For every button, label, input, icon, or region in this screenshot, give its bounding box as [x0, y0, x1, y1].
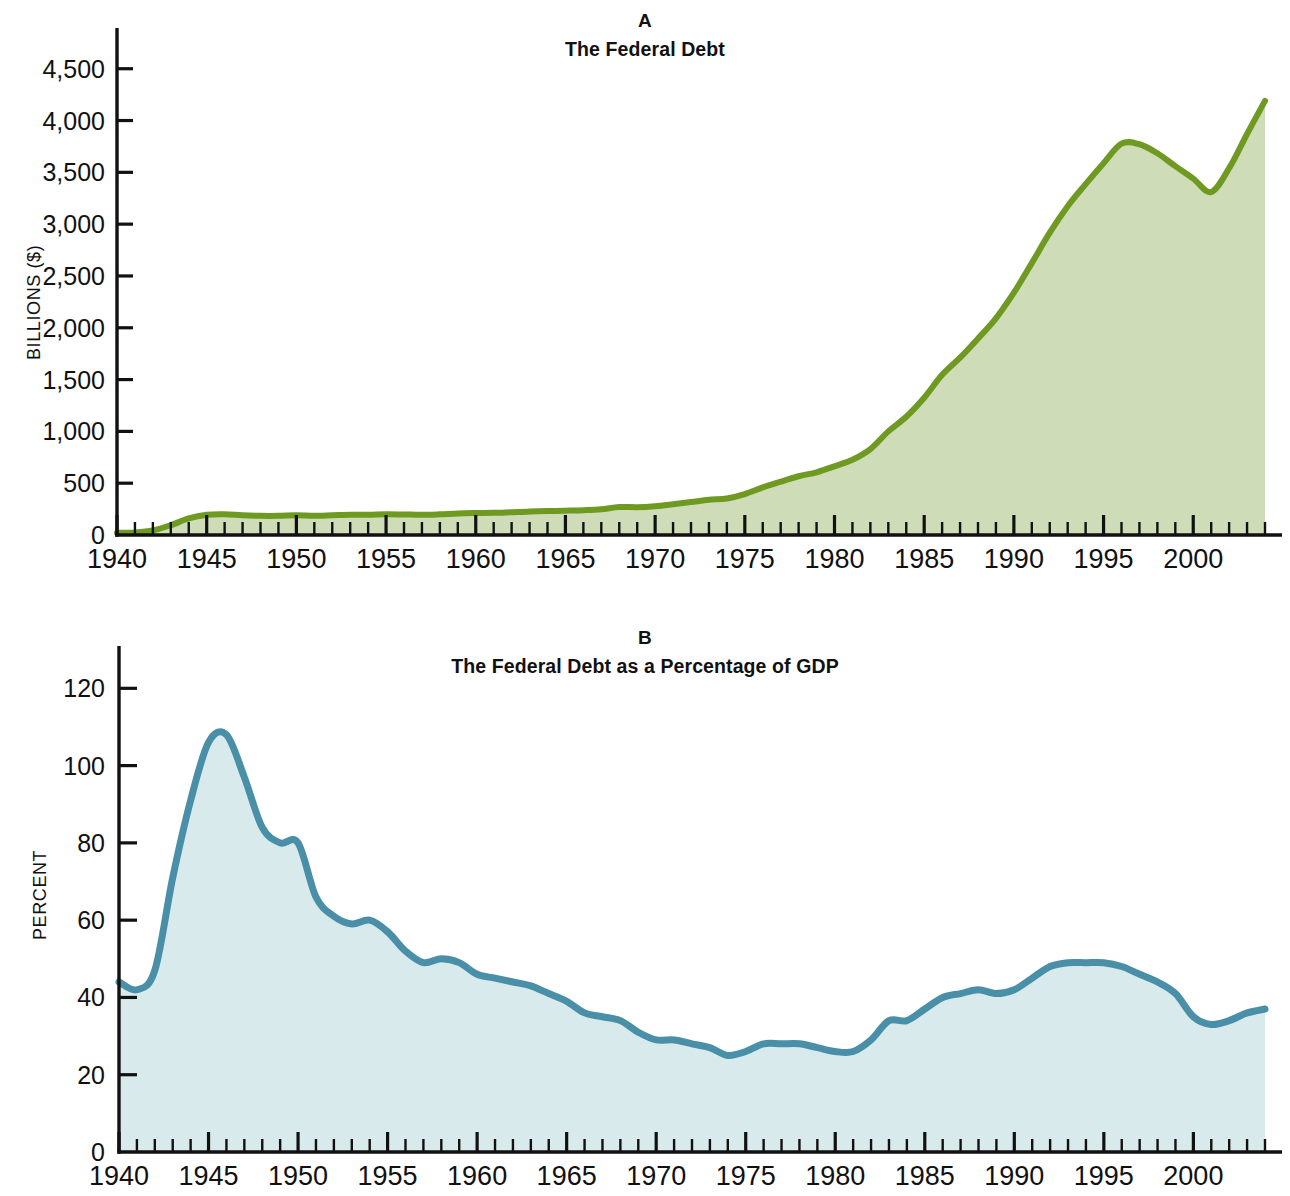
panel-a-x-tick-label: 1960 [446, 544, 506, 574]
panel-b-x-tick-label: 1995 [1074, 1161, 1134, 1191]
panel-b-x-tick-label: 2000 [1163, 1161, 1223, 1191]
panel-b-x-tick-label: 1960 [447, 1161, 507, 1191]
panel-a-plot: 05001,0001,5002,0002,5003,0003,5004,0004… [0, 0, 1290, 600]
panel-b-x-tick-label: 1945 [178, 1161, 238, 1191]
panel-b-x-tick-label: 1970 [626, 1161, 686, 1191]
panel-b-plot: 0204060801001201940194519501955196019651… [0, 600, 1290, 1196]
panel-b-x-tick-label: 1985 [895, 1161, 955, 1191]
panel-a-x-tick-label: 1990 [984, 544, 1044, 574]
panel-b-y-tick-label: 80 [77, 829, 105, 857]
panel-a-x-tick-label: 1955 [356, 544, 416, 574]
panel-b-federal-debt-pct-gdp: B The Federal Debt as a Percentage of GD… [0, 600, 1290, 1196]
panel-a-x-tick-label: 1995 [1074, 544, 1134, 574]
panel-b-x-tick-label: 1980 [805, 1161, 865, 1191]
panel-a-x-tick-label: 1950 [266, 544, 326, 574]
panel-a-y-tick-label: 1,000 [42, 417, 105, 445]
panel-a-x-tick-label: 1980 [804, 544, 864, 574]
panel-b-x-tick-label: 1940 [89, 1161, 149, 1191]
panel-b-y-tick-label: 60 [77, 906, 105, 934]
panel-b-y-tick-label: 20 [77, 1061, 105, 1089]
panel-a-y-tick-label: 3,000 [42, 210, 105, 238]
panel-a-y-tick-label: 3,500 [42, 158, 105, 186]
panel-a-y-tick-label: 4,000 [42, 107, 105, 135]
panel-b-x-tick-label: 1965 [537, 1161, 597, 1191]
panel-a-x-tick-label: 1975 [715, 544, 775, 574]
panel-b-x-tick-label: 1950 [268, 1161, 328, 1191]
panel-a-x-tick-label: 1985 [894, 544, 954, 574]
panel-b-area-group [119, 732, 1265, 1152]
panel-b-x-tick-label: 1990 [984, 1161, 1044, 1191]
panel-b-x-tick-label: 1975 [716, 1161, 776, 1191]
panel-b-area-fill [119, 732, 1265, 1152]
panel-a-y-tick-label: 1,500 [42, 366, 105, 394]
panel-a-x-tick-label: 1940 [87, 544, 147, 574]
panel-a-x-tick-label: 1965 [535, 544, 595, 574]
panel-a-x-tick-label: 1945 [177, 544, 237, 574]
panel-a-area-group [117, 101, 1265, 535]
panel-a-area-fill [117, 101, 1265, 535]
panel-a-y-tick-label: 2,000 [42, 314, 105, 342]
panel-b-y-tick-label: 120 [63, 674, 105, 702]
panel-a-y-tick-label: 500 [63, 469, 105, 497]
panel-a-y-tick-label: 4,500 [42, 55, 105, 83]
panel-b-y-tick-label: 100 [63, 752, 105, 780]
federal-debt-figure: A The Federal Debt BILLIONS ($) 05001,00… [0, 0, 1290, 1196]
panel-a-federal-debt: A The Federal Debt BILLIONS ($) 05001,00… [0, 0, 1290, 600]
panel-a-y-tick-label: 2,500 [42, 262, 105, 290]
panel-a-x-tick-label: 1970 [625, 544, 685, 574]
panel-b-x-tick-label: 1955 [358, 1161, 418, 1191]
panel-a-x-tick-label: 2000 [1163, 544, 1223, 574]
panel-b-y-tick-label: 40 [77, 983, 105, 1011]
